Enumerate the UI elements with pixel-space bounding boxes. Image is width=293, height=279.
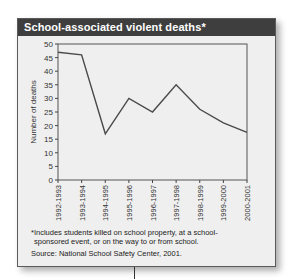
- x-tick-label: 2000-2001: [243, 185, 252, 221]
- y-tick-label: 35: [44, 81, 53, 90]
- y-tick-label: 0: [49, 176, 54, 185]
- x-tick-label: 1998-1999: [196, 185, 205, 221]
- y-tick-label: 40: [44, 67, 53, 76]
- x-tick-label: 1996-1997: [149, 185, 158, 221]
- pointer-line: [134, 267, 135, 279]
- x-tick-label: 1994-1995: [101, 185, 110, 221]
- y-tick-label: 10: [44, 149, 53, 158]
- data-line: [58, 52, 247, 134]
- x-tick-label: 1997-1998: [172, 185, 181, 221]
- y-tick-label: 15: [44, 135, 53, 144]
- footnote: *Includes students killed on school prop…: [31, 229, 261, 246]
- source-text: Source: National School Safety Center, 2…: [31, 249, 182, 258]
- y-tick-label: 25: [44, 108, 53, 117]
- x-tick-label: 1993-1994: [78, 185, 87, 221]
- y-axis-label: Number of deaths: [29, 80, 38, 144]
- y-tick-label: 50: [44, 40, 53, 49]
- y-tick-label: 20: [44, 122, 53, 131]
- x-tick-label: 1992-1993: [54, 185, 63, 221]
- footnote-line-2: sponsored event, or on the way to or fro…: [31, 238, 261, 247]
- y-tick-label: 45: [44, 54, 53, 63]
- x-tick-label: 1995-1996: [125, 185, 134, 221]
- y-tick-label: 30: [44, 94, 53, 103]
- x-tick-label: 1999-2000: [219, 185, 228, 221]
- y-tick-label: 5: [49, 162, 54, 171]
